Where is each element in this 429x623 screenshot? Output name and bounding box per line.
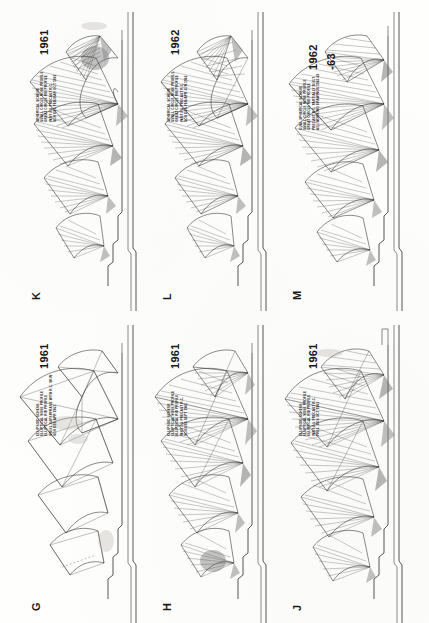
panel-J: 1961 J ELLIPSOID SCHEME ELLIPTICAL NOSE … (273, 311, 429, 623)
panel-H-drawing (143, 311, 273, 623)
panel-L-plate-label: L (157, 293, 175, 300)
note-line: SCH DES FEB/APR JUN 1962 (184, 71, 188, 122)
panel-J-drawing (273, 311, 429, 623)
panel-J-plate-label: J (287, 605, 305, 611)
panel-G-notes: ELLIPSOID SCHEME ELLIPTICAL NOSE PROFILE… (36, 375, 57, 436)
panel-G-plate-label: G (26, 602, 44, 611)
podium-baseline (108, 325, 136, 623)
panel-M-year-label: 1962 -63 (303, 44, 339, 70)
note-line: ELLIPTICAL RIB PROFILE (307, 391, 311, 436)
panel-H: 1961 H ELLIPSOID SCHEME ELLIPTICAL NOSE … (143, 311, 273, 623)
panel-M-plate-label: M (287, 291, 305, 300)
shell-group (155, 350, 257, 579)
panel-K-notes: SPHERICAL SCHEME SMALL CIRCLE NOSE PROFI… (36, 71, 57, 122)
panel-M: 1962 -63 M DUAL SPHERICAL SCHEME SMALL C… (273, 0, 429, 311)
note-line: PREL. DES OCT 1961 (316, 391, 320, 436)
note-line: SCH DES FEB/MAR OCT 1961 (53, 71, 57, 122)
shell-group (285, 349, 395, 583)
panel-H-plate-label: H (157, 603, 175, 611)
note-line: ELLIPTICAL RIB PROFILE (175, 391, 179, 436)
note-line: ALL WORKING DRAWINGS 1962-63 (316, 74, 320, 130)
panel-K-plate-label: K (26, 292, 44, 300)
shell-group (30, 36, 128, 262)
panel-H-year-label: 1961 (165, 343, 183, 369)
panel-J-year-label: 1961 (303, 343, 321, 369)
panel-K-year-label: 1961 (34, 29, 52, 55)
panel-L: 1962 L SPHERICAL SCHEME SMALL CIRCLE NOS… (143, 0, 273, 311)
panel-G: 1961 G ELLIPSOID SCHEME ELLIPTICAL NOSE … (0, 311, 143, 623)
panel-M-notes: DUAL SPHERICAL SCHEME SMALL CIRCLE NOSE … (299, 74, 320, 130)
panel-L-notes: SPHERICAL SCHEME SMALL CIRCLE NOSE PROFI… (167, 71, 188, 122)
note-line: GREAT CIRCLE RIB PROFILE (44, 71, 48, 122)
panel-K-drawing (0, 0, 143, 311)
panel-L-drawing (143, 0, 273, 311)
shell-group (161, 36, 258, 262)
note-line: GREAT CIRCLE RIB PROFILE (307, 74, 311, 130)
drawing-sheet: 1961 K SPHERICAL SCHEME SMALL CIRCLE NOS… (0, 0, 429, 623)
note-line: SCH DES APR 1961 (53, 375, 57, 436)
panel-G-year-label: 1961 (34, 343, 52, 369)
note-line: SCH DES SEPT 1961 (184, 391, 188, 436)
panel-J-notes: ELLIPSOID SCHEME ELLIPTICAL NOSE PROFILE… (299, 391, 320, 436)
note-line: GREAT CIRCLE RIB PROFILE (175, 71, 179, 122)
panel-M-drawing (273, 0, 429, 311)
panel-K: 1961 K SPHERICAL SCHEME SMALL CIRCLE NOS… (0, 0, 143, 311)
panel-G-drawing (0, 311, 143, 623)
panel-L-year-label: 1962 (165, 29, 183, 55)
panel-H-notes: ELLIPSOID SCHEME ELLIPTICAL NOSE PROFILE… (167, 391, 188, 436)
